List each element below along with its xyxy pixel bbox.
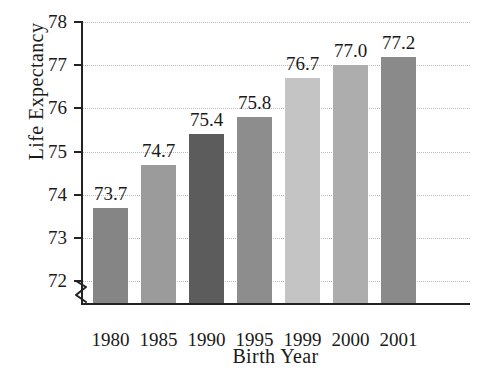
plot-area: 72737475767778 73.774.775.475.876.777.07… [81,22,470,303]
bar [189,134,224,303]
bar-value-label: 77.2 [369,33,429,52]
y-axis-tick [74,21,83,23]
bar [285,78,320,303]
x-axis-title: Birth Year [81,345,470,368]
y-axis-tick-label: 75 [23,142,67,161]
bar-value-label: 73.7 [81,184,141,203]
bar [237,117,272,303]
bar [141,165,176,303]
bar-value-label: 74.7 [129,141,189,160]
bar-value-label: 75.4 [177,110,237,129]
y-axis-tick-label: 73 [23,228,67,247]
y-axis-tick [74,107,83,109]
x-axis-line [81,303,470,305]
bar [93,208,128,303]
y-axis-tick-label: 74 [23,185,67,204]
axis-break-icon [73,280,91,306]
y-axis-tick-label: 77 [23,55,67,74]
bar [333,65,368,303]
y-axis-tick-label: 78 [23,12,67,31]
bar-chart: Life Expectancy 72737475767778 73.774.77… [0,0,502,379]
bar [381,57,416,303]
y-axis-tick-label: 76 [23,98,67,117]
y-axis-tick [74,237,83,239]
gridline [83,22,470,23]
y-axis-tick [74,64,83,66]
bar-value-label: 75.8 [225,93,285,112]
y-axis-tick-label: 72 [23,271,67,290]
y-axis-tick [74,151,83,153]
